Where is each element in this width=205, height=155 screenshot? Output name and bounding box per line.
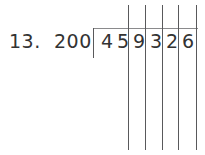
place-value-column-rule: [145, 5, 146, 150]
dividend-digit: 3: [150, 32, 163, 51]
dividend-digit: 2: [166, 32, 179, 51]
dividend-digit: 6: [182, 32, 195, 51]
place-value-column-rule: [178, 5, 179, 150]
dividend-digit: 9: [133, 32, 146, 51]
place-value-column-rule: [196, 5, 197, 150]
division-bracket-left-rule: [93, 28, 94, 58]
long-division-problem: 13. 200 4 5 9 3 2 6: [0, 0, 205, 155]
problem-number-label: 13.: [9, 32, 41, 51]
dividend-digit: 4: [101, 32, 114, 51]
divisor-value: 200: [54, 32, 92, 51]
place-value-column-rule: [162, 5, 163, 150]
place-value-column-rule: [128, 5, 129, 150]
